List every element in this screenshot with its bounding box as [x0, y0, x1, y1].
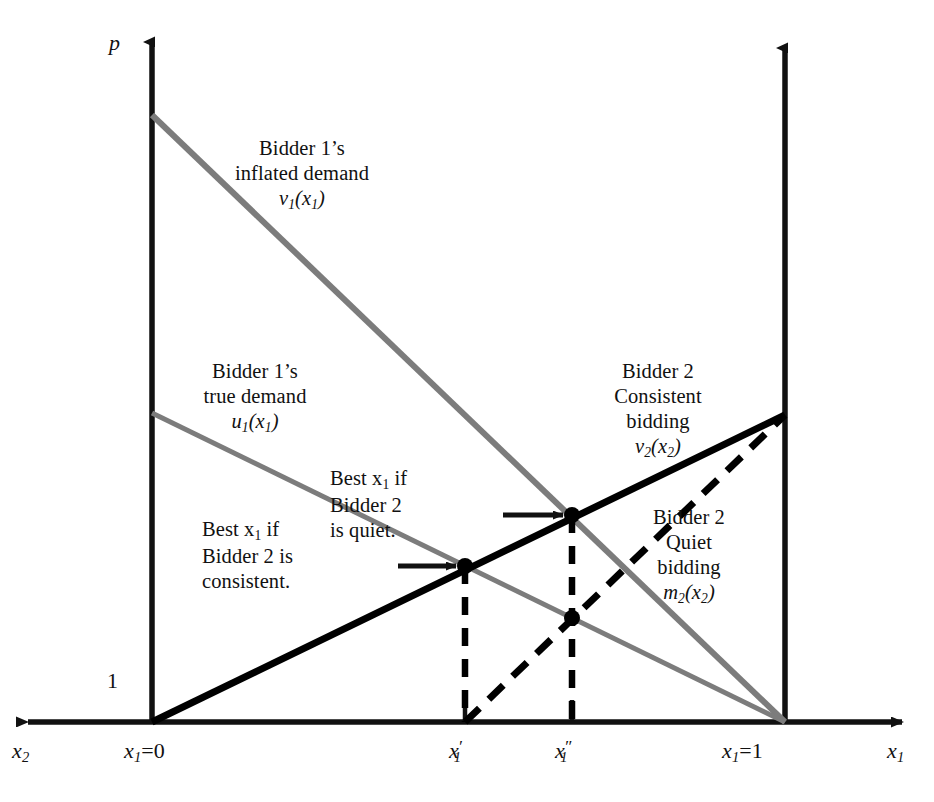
curve-label-inflated-demand-line1: Bidder 1’s [199, 136, 405, 161]
marker-best-x1-quiet [564, 507, 580, 523]
y-axis-label-p: p [109, 30, 120, 57]
curve-label-true-demand: Bidder 1’s true demand u1(x1) [160, 359, 350, 436]
curve-label-consistent-bidding-line1: Bidder 2 [568, 359, 748, 384]
curve-label-true-demand-line2: true demand [160, 384, 350, 409]
curve-label-consistent-bidding-fn: v2(x2) [568, 434, 748, 461]
tick-label-x1-prime: x′1 [449, 738, 461, 767]
annotation-best-x1-quiet-line2: Bidder 2 [330, 493, 505, 518]
annotation-best-x1-consistent-line2: Bidder 2 is [202, 544, 392, 569]
tick-label-x1-double-prime: x″1 [555, 738, 568, 767]
curve-label-quiet-bidding-line2: Quiet [609, 530, 769, 555]
x-axis-label-x1: x1 [887, 738, 904, 767]
curve-label-consistent-bidding-line2: Consistent [568, 384, 748, 409]
curve-label-true-demand-line1: Bidder 1’s [160, 359, 350, 384]
x-axis-label-x2: x2 [12, 738, 29, 767]
annotation-best-x1-consistent: Best x1 if Bidder 2 is consistent. [202, 517, 392, 594]
curve-label-inflated-demand-fn: v1(x1) [199, 186, 405, 213]
curve-label-inflated-demand-line2: inflated demand [199, 161, 405, 186]
curve-label-true-demand-fn: u1(x1) [160, 409, 350, 436]
curve-label-quiet-bidding-line3: bidding [609, 555, 769, 580]
marker-quiet-crossing [564, 610, 580, 626]
curve-label-quiet-bidding: Bidder 2 Quiet bidding m2(x2) [609, 505, 769, 607]
annotation-best-x1-consistent-line3: consistent. [202, 569, 392, 594]
tick-label-x1-equals-1: x1=1 [722, 738, 763, 767]
marker-best-x1-consistent [457, 558, 473, 574]
y-axis-tick-label-1: 1 [107, 668, 118, 695]
curve-label-inflated-demand: Bidder 1’s inflated demand v1(x1) [199, 136, 405, 213]
tick-label-x1-equals-0: x1=0 [124, 738, 165, 767]
annotation-best-x1-quiet-line1: Best x1 if [330, 466, 505, 493]
diagram-svg [0, 0, 934, 802]
curve-label-quiet-bidding-fn: m2(x2) [609, 580, 769, 607]
curve-label-consistent-bidding-line3: bidding [568, 409, 748, 434]
figure-canvas: p x1 x2 1 x1=0 x′1 x″1 x1=1 Bidder 1’s i… [0, 0, 934, 802]
curve-label-consistent-bidding: Bidder 2 Consistent bidding v2(x2) [568, 359, 748, 461]
curve-label-quiet-bidding-line1: Bidder 2 [609, 505, 769, 530]
annotation-best-x1-consistent-line1: Best x1 if [202, 517, 392, 544]
